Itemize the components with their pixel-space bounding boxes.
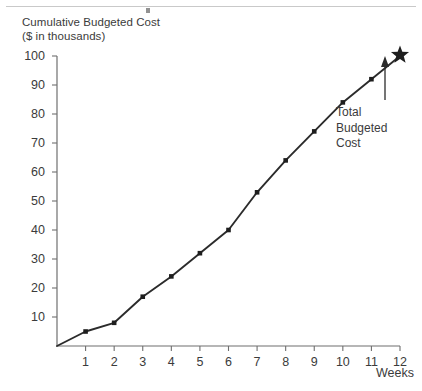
x-axis-title: Weeks <box>376 367 414 380</box>
y-axis-tick-label: 80 <box>15 108 45 121</box>
y-axis-tick-label: 100 <box>15 50 45 63</box>
data-point-marker <box>369 77 374 82</box>
x-axis-tick-label: 8 <box>275 356 297 369</box>
data-point-marker <box>140 294 145 299</box>
data-point-marker <box>226 228 231 233</box>
data-point-marker <box>83 329 88 334</box>
y-axis-tick-label: 20 <box>15 282 45 295</box>
y-axis-tick-label: 60 <box>15 166 45 179</box>
data-point-marker <box>112 321 117 326</box>
x-axis-tick-label: 3 <box>132 356 154 369</box>
y-axis-tick-label: 30 <box>15 253 45 266</box>
x-axis-tick-label: 10 <box>332 356 354 369</box>
data-point-marker <box>255 190 260 195</box>
y-axis-tick-label: 90 <box>15 79 45 92</box>
x-axis-tick-label: 9 <box>303 356 325 369</box>
y-axis-tick-label: 50 <box>15 195 45 208</box>
y-axis-tick-label: 10 <box>15 311 45 324</box>
line-chart-canvas <box>0 0 422 391</box>
y-axis-tick-label: 70 <box>15 137 45 150</box>
data-point-marker <box>283 158 288 163</box>
chart-page: Cumulative Budgeted Cost ($ in thousands… <box>0 0 422 391</box>
x-axis-ticks <box>86 346 400 351</box>
data-point-marker <box>312 129 317 134</box>
data-point-marker <box>341 100 346 105</box>
x-axis-tick-label: 5 <box>189 356 211 369</box>
x-axis-tick-label: 1 <box>75 356 97 369</box>
cumulative-cost-line <box>57 56 400 346</box>
x-axis-tick-label: 4 <box>160 356 182 369</box>
annotation-arrow <box>381 56 389 100</box>
y-axis-tick-label: 40 <box>15 224 45 237</box>
x-axis-tick-label: 2 <box>103 356 125 369</box>
data-point-marker <box>198 251 203 256</box>
total-budgeted-cost-annotation: Total Budgeted Cost <box>336 105 412 152</box>
y-axis-ticks <box>52 56 57 317</box>
x-axis-tick-label: 7 <box>246 356 268 369</box>
x-axis-tick-label: 6 <box>218 356 240 369</box>
data-point-marker <box>169 274 174 279</box>
